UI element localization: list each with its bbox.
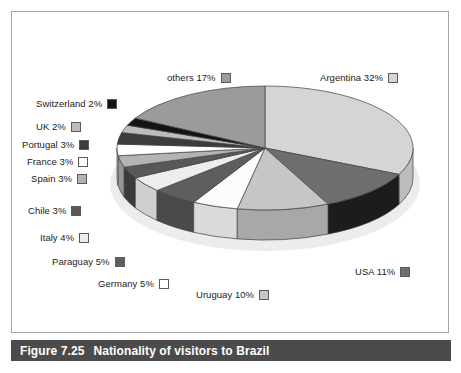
pie-label-france: France 3% — [27, 157, 88, 167]
pie-label-swatch-icon — [77, 174, 87, 184]
pie-label-text: Uruguay 10% — [196, 290, 254, 300]
pie-label-swatch-icon — [259, 290, 269, 300]
pie-label-swatch-icon — [400, 267, 410, 277]
figure-caption-number: Figure 7.25 — [20, 344, 84, 358]
pie-label-text: Italy 4% — [40, 233, 74, 243]
pie-label-text: others 17% — [167, 73, 216, 83]
pie-label-text: USA 11% — [355, 267, 395, 277]
pie-label-others: others 17% — [167, 73, 231, 83]
pie-label-swatch-icon — [221, 73, 231, 83]
pie-chart-3d — [0, 0, 461, 373]
pie-label-swatch-icon — [78, 157, 88, 167]
pie-label-swatch-icon — [79, 140, 89, 150]
pie-label-text: Germany 5% — [98, 279, 154, 289]
pie-label-argentina: Argentina 32% — [320, 73, 398, 83]
pie-label-swatch-icon — [107, 99, 117, 109]
pie-slices-group — [110, 86, 420, 251]
pie-label-swatch-icon — [159, 279, 169, 289]
figure-caption-text: Nationality of visitors to Brazil — [93, 344, 269, 358]
pie-label-text: Paraguay 5% — [52, 257, 110, 267]
pie-label-italy: Italy 4% — [40, 233, 89, 243]
pie-label-swatch-icon — [388, 73, 398, 83]
figure-caption-bar: Figure 7.25 Nationality of visitors to B… — [11, 340, 451, 361]
pie-label-spain: Spain 3% — [31, 174, 87, 184]
pie-label-paraguay: Paraguay 5% — [52, 257, 125, 267]
pie-label-text: France 3% — [27, 157, 73, 167]
pie-label-swatch-icon — [79, 233, 89, 243]
pie-label-switzerland: Switzerland 2% — [36, 99, 117, 109]
pie-label-text: Argentina 32% — [320, 73, 383, 83]
pie-label-text: Switzerland 2% — [36, 99, 102, 109]
pie-label-usa: USA 11% — [355, 267, 410, 277]
pie-label-swatch-icon — [71, 206, 81, 216]
pie-label-swatch-icon — [71, 122, 81, 132]
pie-label-text: Portugal 3% — [22, 140, 74, 150]
pie-label-uk: UK 2% — [36, 122, 81, 132]
pie-label-portugal: Portugal 3% — [22, 140, 89, 150]
pie-label-swatch-icon — [115, 257, 125, 267]
pie-label-text: Spain 3% — [31, 174, 72, 184]
pie-label-text: UK 2% — [36, 122, 66, 132]
pie-label-chile: Chile 3% — [28, 206, 81, 216]
figure-container: others 17%Argentina 32%Switzerland 2%UK … — [0, 0, 461, 373]
pie-label-text: Chile 3% — [28, 206, 66, 216]
pie-label-uruguay: Uruguay 10% — [196, 290, 269, 300]
pie-label-germany: Germany 5% — [98, 279, 169, 289]
